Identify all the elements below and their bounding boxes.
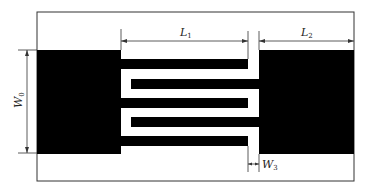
right-finger-1	[131, 79, 259, 89]
label-W0: W0	[12, 92, 26, 108]
right-finger-2	[131, 117, 259, 127]
interdigital-capacitor-diagram: L1 L2 W0 W3	[0, 0, 367, 193]
left-finger-1	[121, 59, 248, 69]
left-pad	[37, 50, 121, 154]
right-pad	[259, 50, 354, 154]
left-finger-2	[121, 98, 248, 108]
left-finger-3	[121, 136, 248, 146]
